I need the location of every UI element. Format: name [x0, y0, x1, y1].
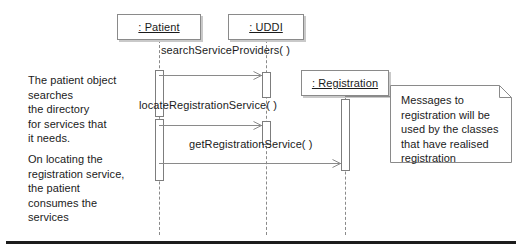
message-label-search-service-providers: searchServiceProviders( ) — [161, 44, 290, 56]
message-line-locate-registration-service[interactable] — [159, 125, 262, 126]
object-box-registration[interactable]: : Registration — [301, 70, 389, 96]
object-label-patient: : Patient — [138, 21, 179, 33]
object-label-uddi: : UDDI — [249, 21, 283, 33]
object-label-registration: : Registration — [312, 77, 378, 89]
activation-uddi-1[interactable] — [262, 72, 271, 98]
uml-note-registration[interactable]: Messages to registration will be used by… — [390, 85, 512, 163]
activation-patient-2[interactable] — [155, 119, 164, 181]
message-line-get-registration-service[interactable] — [159, 163, 341, 164]
object-box-patient[interactable]: : Patient — [117, 14, 201, 40]
uml-note-text: Messages to registration will be used by… — [401, 93, 499, 166]
activation-registration-1[interactable] — [341, 99, 350, 171]
sequence-diagram-canvas: : Patient : UDDI : Registration searchSe… — [0, 0, 522, 251]
annotation-on-locating: On locating the registration service, th… — [28, 152, 124, 225]
note-anchor-line — [345, 96, 390, 97]
annotation-patient-searches: The patient object searches the director… — [28, 73, 116, 146]
object-box-uddi[interactable]: : UDDI — [228, 14, 304, 40]
message-line-search-service-providers[interactable] — [159, 75, 262, 76]
bottom-divider — [6, 241, 516, 244]
message-label-get-registration-service: getRegistrationService( ) — [189, 138, 313, 150]
message-label-locate-registration-service: locateRegistrationService( ) — [139, 99, 277, 111]
